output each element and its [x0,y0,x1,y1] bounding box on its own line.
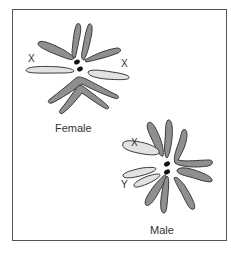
autosome [72,24,81,58]
x-label-male: X [131,138,138,148]
female-caption: Female [55,123,92,134]
autosome [174,130,212,167]
y-label-male: Y [121,180,128,190]
male-karyotype [123,120,213,213]
male-caption: Male [150,225,174,236]
x-label-female-left: X [28,54,35,64]
autosome [177,168,212,182]
x-chromosome [88,70,129,80]
autosome [82,24,93,60]
male-centromeres [163,160,171,175]
autosome [85,48,121,62]
female-centromeres [73,59,83,73]
autosome [165,120,173,158]
autosome [174,177,195,209]
x-chromosome [26,66,74,73]
autosome [38,41,74,59]
chromosome-diagram [0,0,231,256]
x-label-female-right: X [121,59,128,69]
